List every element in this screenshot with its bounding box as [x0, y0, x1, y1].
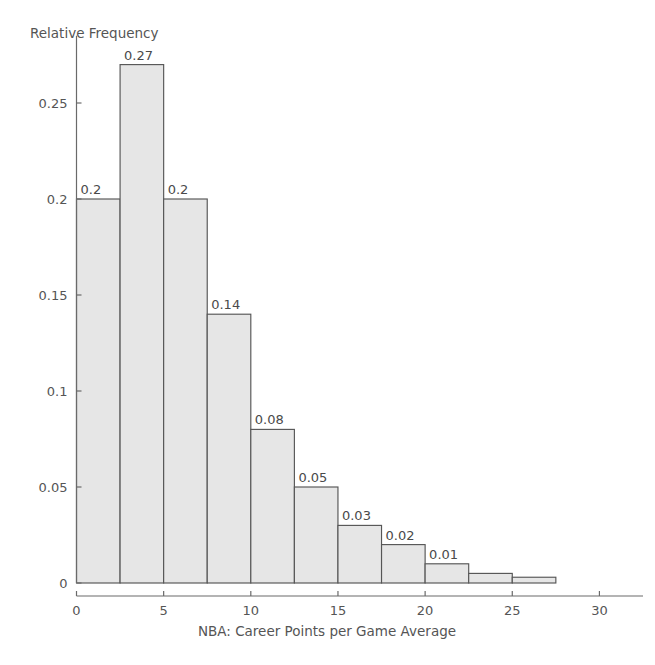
y-axis-ticks: 00.050.10.150.20.25 [39, 96, 82, 591]
x-tick-label: 20 [417, 603, 434, 618]
x-tick-label: 30 [591, 603, 608, 618]
chart-canvas: 051015202530 00.050.10.150.20.25 0.20.27… [0, 0, 655, 665]
x-tick-label: 0 [72, 603, 80, 618]
y-tick-label: 0 [59, 576, 67, 591]
x-tick-label: 25 [504, 603, 521, 618]
y-tick-label: 0.15 [39, 288, 68, 303]
y-tick-label: 0.25 [39, 96, 68, 111]
bar-value-label: 0.2 [81, 182, 102, 197]
histogram-bar [294, 487, 338, 583]
bar-value-label: 0.02 [386, 528, 415, 543]
histogram-bar [164, 199, 208, 583]
histogram-bar [120, 65, 164, 583]
y-tick-label: 0.2 [47, 192, 68, 207]
y-tick-label: 0.1 [47, 384, 68, 399]
bar-value-label: 0.03 [342, 508, 371, 523]
x-axis-ticks: 051015202530 [72, 591, 607, 618]
bar-value-label: 0.14 [211, 297, 240, 312]
x-tick-label: 5 [160, 603, 168, 618]
histogram-bar [251, 429, 295, 583]
histogram-chart: 051015202530 00.050.10.150.20.25 0.20.27… [0, 0, 655, 665]
bar-value-label: 0.01 [429, 547, 458, 562]
histogram-bar [425, 564, 469, 583]
histogram-bar [77, 199, 121, 583]
bar-value-label: 0.05 [298, 470, 327, 485]
x-axis-title: NBA: Career Points per Game Average [198, 623, 456, 639]
histogram-bar [338, 525, 382, 583]
x-tick-label: 10 [243, 603, 260, 618]
histogram-bar [207, 314, 251, 583]
x-tick-label: 15 [330, 603, 347, 618]
bar-value-label: 0.2 [168, 182, 189, 197]
histogram-bar [382, 545, 426, 583]
bars-group [77, 65, 556, 583]
bar-value-label: 0.27 [124, 48, 153, 63]
y-axis-title: Relative Frequency [30, 25, 158, 41]
y-tick-label: 0.05 [39, 480, 68, 495]
histogram-bar [512, 577, 556, 583]
bar-value-label: 0.08 [255, 412, 284, 427]
histogram-bar [469, 573, 513, 583]
